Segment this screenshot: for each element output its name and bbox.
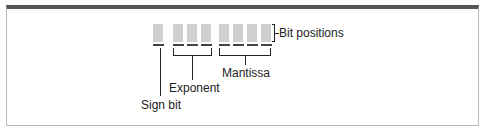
exponent-bit-box <box>187 24 197 42</box>
mantissa-bit-underline <box>233 44 244 46</box>
sign-bit-label: Sign bit <box>141 98 181 112</box>
mantissa-bit-underline <box>261 44 272 46</box>
exponent-bit-box <box>201 24 211 42</box>
mantissa-label: Mantissa <box>222 66 270 80</box>
mantissa-bit-underline <box>219 44 230 46</box>
bit-positions-label: Bit positions <box>279 26 344 40</box>
exponent-bit-underline <box>173 44 184 46</box>
bit-positions-bracket-bottom <box>272 41 275 42</box>
mantissa-bit-box <box>261 24 271 42</box>
exponent-label: Exponent <box>169 81 220 95</box>
mantissa-bit-box <box>219 24 229 42</box>
mantissa-bit-box <box>233 24 243 42</box>
exponent-leader-line <box>192 55 193 80</box>
mantissa-bit-box <box>247 24 257 42</box>
exponent-bit-box <box>173 24 183 42</box>
exponent-bit-underline <box>187 44 198 46</box>
mantissa-leader-line <box>245 55 246 65</box>
bit-positions-bracket-top <box>272 24 275 25</box>
sign-bit-underline <box>153 44 164 46</box>
exponent-bit-underline <box>201 44 212 46</box>
mantissa-bit-underline <box>247 44 258 46</box>
sign-bit-box <box>153 24 163 42</box>
sign-bit-leader-line <box>160 48 161 96</box>
